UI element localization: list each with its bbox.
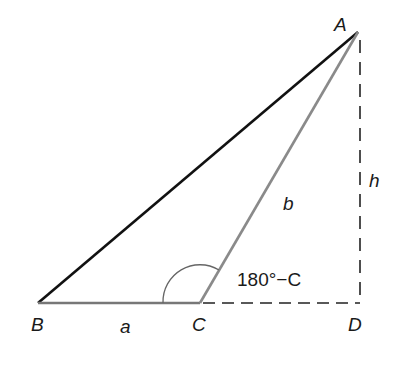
side-b-line [200, 32, 358, 303]
vertex-c-label: C [192, 314, 206, 335]
vertex-a-label: A [333, 14, 347, 35]
vertex-b-label: B [31, 314, 44, 335]
side-c-line [38, 32, 358, 303]
side-b-label: b [283, 193, 294, 214]
side-a-label: a [120, 316, 131, 337]
vertex-d-label: D [348, 314, 362, 335]
triangle-diagram: A B C D a b h 180°−C [0, 0, 396, 369]
angle-label: 180°−C [237, 269, 301, 290]
altitude-h-label: h [369, 170, 380, 191]
